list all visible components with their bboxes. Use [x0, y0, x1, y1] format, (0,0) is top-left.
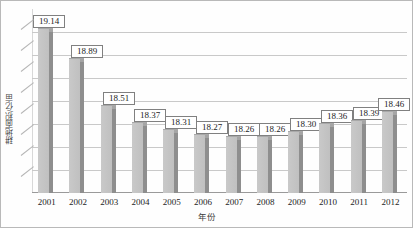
- x-axis-label-2007: 2007: [217, 197, 251, 207]
- data-label: 18.26: [259, 123, 291, 136]
- data-label: 18.46: [378, 98, 410, 111]
- bar[interactable]: [69, 59, 88, 193]
- bar-side-shadow: [330, 127, 334, 193]
- bar[interactable]: [382, 112, 401, 193]
- gridline: [32, 32, 407, 33]
- bar-top-cap: [49, 29, 53, 32]
- data-label: 18.89: [71, 45, 103, 58]
- bar-top-cap: [268, 137, 272, 140]
- bar-side-shadow: [112, 109, 116, 193]
- bar-chart: 耕地面积/亿亩 19.1418.8918.5118.3718.3118.2718…: [0, 0, 413, 228]
- gridline: [32, 101, 407, 102]
- plot-area: 19.1418.8918.5118.3718.3118.2718.2618.26…: [32, 9, 407, 193]
- bar-top-cap: [393, 112, 397, 115]
- x-axis-label-2005: 2005: [155, 197, 189, 207]
- data-label: 18.36: [321, 110, 353, 123]
- bar-top-cap: [237, 137, 241, 140]
- bar[interactable]: [319, 124, 338, 193]
- bar[interactable]: [194, 135, 213, 193]
- data-label: 18.30: [290, 118, 322, 131]
- bar-side-shadow: [268, 140, 272, 193]
- data-label: 18.31: [165, 116, 197, 129]
- bar-side-shadow: [174, 133, 178, 193]
- x-axis-label-2003: 2003: [92, 197, 126, 207]
- bar-side-shadow: [362, 124, 366, 193]
- bar-top-cap: [299, 132, 303, 135]
- bar-side-shadow: [205, 138, 209, 193]
- bar[interactable]: [351, 121, 370, 193]
- bar-side-shadow: [143, 126, 147, 193]
- bar-side-shadow: [299, 135, 303, 193]
- y-axis-title: 耕地面积/亿亩: [3, 59, 17, 179]
- bar-top-cap: [143, 123, 147, 126]
- data-label: 18.27: [196, 121, 228, 134]
- x-axis-label-2010: 2010: [311, 197, 345, 207]
- bar[interactable]: [163, 130, 182, 193]
- bar-top-cap: [205, 135, 209, 138]
- x-axis-label-2004: 2004: [123, 197, 157, 207]
- x-axis-label-2001: 2001: [30, 197, 64, 207]
- bar-top-cap: [112, 106, 116, 109]
- bar[interactable]: [38, 29, 57, 193]
- x-axis-label-2012: 2012: [373, 197, 407, 207]
- x-axis-label-2011: 2011: [342, 197, 376, 207]
- gridline: [32, 78, 407, 79]
- bar-top-cap: [330, 124, 334, 127]
- data-label: 19.14: [33, 15, 65, 28]
- bar[interactable]: [101, 106, 120, 193]
- bar-side-shadow: [80, 62, 84, 193]
- bar[interactable]: [132, 123, 151, 193]
- data-label: 18.26: [228, 123, 260, 136]
- bar-top-cap: [174, 130, 178, 133]
- bar[interactable]: [288, 132, 307, 193]
- bar-side-shadow: [393, 115, 397, 193]
- bar-top-cap: [80, 59, 84, 62]
- data-label: 18.37: [134, 109, 166, 122]
- bar-top-cap: [362, 121, 366, 124]
- bar[interactable]: [226, 137, 245, 193]
- bar-side-shadow: [49, 32, 53, 193]
- x-axis-title: 年份: [1, 210, 412, 222]
- bar[interactable]: [257, 137, 276, 193]
- bar-side-shadow: [237, 140, 241, 193]
- x-axis-label-2006: 2006: [186, 197, 220, 207]
- x-axis-label-2009: 2009: [280, 197, 314, 207]
- x-axis-label-2008: 2008: [248, 197, 282, 207]
- data-label: 18.51: [103, 92, 135, 105]
- x-axis-label-2002: 2002: [61, 197, 95, 207]
